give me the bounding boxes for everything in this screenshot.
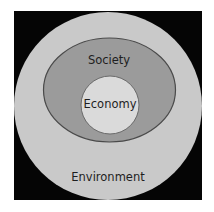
economy-label: Economy	[84, 97, 137, 111]
society-label: Society	[88, 53, 130, 67]
environment-label: Environment	[71, 170, 145, 184]
nested-circles-diagram: Society Economy Environment	[0, 0, 214, 212]
